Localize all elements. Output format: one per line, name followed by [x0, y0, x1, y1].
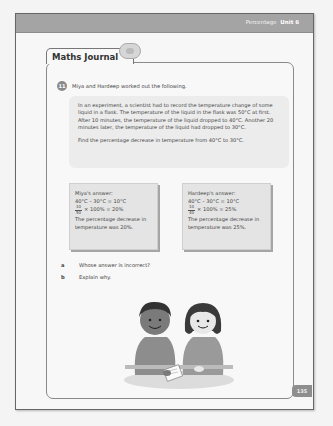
answer-step2-line: 10 50 × 100% = 20%	[75, 205, 152, 215]
answer-step2-line: 10 40 × 100% = 25%	[188, 205, 265, 215]
answer-step2: × 100% = 25%	[197, 206, 236, 212]
answer-step1: 40°C – 30°C = 10°C	[75, 197, 152, 205]
answer-step2: × 100% = 20%	[84, 206, 123, 212]
running-header: Percentage Unit 6	[246, 19, 299, 25]
textbook-page: Percentage Unit 6 Maths Journal 11 Miya …	[15, 13, 314, 410]
sub-question-label: b	[61, 274, 79, 280]
problem-question: Find the percentage decrease in temperat…	[78, 137, 280, 144]
question-number-badge: 11	[57, 81, 67, 91]
problem-paragraph: In an experiment, a scientist had to rec…	[78, 102, 280, 132]
header-bar: Percentage Unit 6	[16, 14, 313, 33]
thought-bubble-icon	[119, 43, 141, 59]
problem-statement: In an experiment, a scientist had to rec…	[69, 96, 289, 168]
fraction: 10 50	[75, 205, 82, 215]
sub-question-label: a	[61, 262, 79, 268]
answer-step1: 40°C – 30°C = 10°C	[188, 197, 265, 205]
unit-label: Unit 6	[280, 19, 299, 25]
answer-conclusion: The percentage decrease in temperature w…	[188, 215, 265, 231]
hardeep-answer-card: Hardeep's answer: 40°C – 30°C = 10°C 10 …	[182, 183, 271, 250]
question-intro: Miya and Hardeep worked out the followin…	[72, 83, 187, 89]
section-title: Percentage	[246, 19, 277, 25]
children-illustration	[117, 295, 242, 390]
sub-question-a: aWhose answer is incorrect?	[61, 262, 150, 268]
answer-name: Hardeep's answer:	[188, 189, 265, 197]
answer-name: Miya's answer:	[75, 189, 152, 197]
answer-conclusion: The percentage decrease in temperature w…	[75, 215, 152, 231]
sub-question-text: Explain why.	[79, 274, 111, 280]
sub-question-text: Whose answer is incorrect?	[79, 262, 150, 268]
sub-question-b: bExplain why.	[61, 274, 111, 280]
fraction: 10 40	[188, 205, 195, 215]
journal-title: Maths Journal	[52, 52, 118, 62]
page-number: 135	[292, 385, 312, 397]
miya-answer-card: Miya's answer: 40°C – 30°C = 10°C 10 50 …	[69, 183, 158, 250]
journal-tab: Maths Journal	[46, 48, 134, 64]
maths-journal-box: 11 Miya and Hardeep worked out the follo…	[46, 62, 294, 399]
